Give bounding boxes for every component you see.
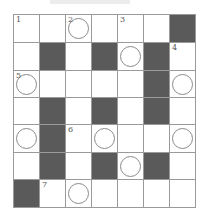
clue-number: 2 xyxy=(68,15,73,24)
grid-cell[interactable] xyxy=(118,153,144,180)
grid-cell[interactable] xyxy=(92,125,118,153)
clue-number: 6 xyxy=(68,125,73,134)
grid-cell[interactable] xyxy=(66,153,92,180)
circle-marker-icon xyxy=(68,183,89,204)
circle-marker-icon xyxy=(120,156,141,177)
grid-cell[interactable] xyxy=(92,180,118,208)
circle-marker-icon xyxy=(172,74,193,95)
grid-cell[interactable] xyxy=(66,98,92,125)
black-square xyxy=(92,43,118,71)
black-square xyxy=(40,43,66,71)
clue-number: 4 xyxy=(172,43,177,52)
clue-number: 5 xyxy=(16,71,21,80)
grid-cell[interactable]: 5 xyxy=(14,71,40,98)
grid-cell[interactable] xyxy=(170,125,196,153)
clue-number: 7 xyxy=(42,180,47,189)
black-square xyxy=(144,43,170,71)
grid-cell[interactable] xyxy=(66,71,92,98)
grid-cell[interactable] xyxy=(170,180,196,208)
grid-cell[interactable] xyxy=(14,153,40,180)
grid-cell[interactable] xyxy=(170,153,196,180)
black-square xyxy=(14,180,40,208)
grid-cell[interactable] xyxy=(118,125,144,153)
grid-cell[interactable] xyxy=(118,71,144,98)
grid-cell[interactable]: 4 xyxy=(170,43,196,71)
black-square xyxy=(40,98,66,125)
grid-cell[interactable] xyxy=(118,180,144,208)
grid-cell[interactable] xyxy=(14,43,40,71)
grid-cell[interactable] xyxy=(40,15,66,43)
grid-cell[interactable]: 1 xyxy=(14,15,40,43)
black-square xyxy=(144,98,170,125)
black-square xyxy=(40,153,66,180)
grid-cell[interactable] xyxy=(170,98,196,125)
grid-cell[interactable] xyxy=(92,15,118,43)
grid-cell[interactable]: 3 xyxy=(118,15,144,43)
grid-cell[interactable]: 7 xyxy=(40,180,66,208)
black-square xyxy=(92,98,118,125)
grid-cell[interactable] xyxy=(144,125,170,153)
black-square xyxy=(92,153,118,180)
circle-marker-icon xyxy=(172,128,193,149)
grid-cell[interactable] xyxy=(144,15,170,43)
circle-marker-icon xyxy=(120,46,141,67)
crossword-grid: 1234567 xyxy=(13,14,196,208)
clue-number: 3 xyxy=(120,15,125,24)
grid-cell[interactable]: 6 xyxy=(66,125,92,153)
grid-cell[interactable] xyxy=(170,71,196,98)
black-square xyxy=(40,125,66,153)
grid-cell[interactable] xyxy=(66,43,92,71)
grid-cell[interactable] xyxy=(14,98,40,125)
black-square xyxy=(170,15,196,43)
cropped-header-text xyxy=(50,0,130,4)
grid-cell[interactable]: 2 xyxy=(66,15,92,43)
grid-cell[interactable] xyxy=(66,180,92,208)
circle-marker-icon xyxy=(16,128,37,149)
black-square xyxy=(144,71,170,98)
grid-cell[interactable] xyxy=(14,125,40,153)
clue-number: 1 xyxy=(16,15,21,24)
black-square xyxy=(144,153,170,180)
grid-cell[interactable] xyxy=(118,43,144,71)
grid-cell[interactable] xyxy=(144,180,170,208)
grid-cell[interactable] xyxy=(92,71,118,98)
circle-marker-icon xyxy=(94,128,115,149)
grid-cell[interactable] xyxy=(118,98,144,125)
grid-cell[interactable] xyxy=(40,71,66,98)
